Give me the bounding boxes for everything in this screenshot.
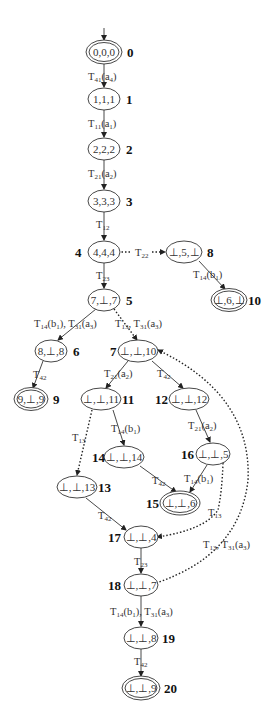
edge-label-5-6: T14(b1), T31(a3) <box>34 318 97 331</box>
edge-label-4-5: T23 <box>96 270 110 283</box>
edge-label-1-2: T11(a1) <box>88 118 117 131</box>
node-label-12: ⊥,⊥,12 <box>171 393 208 405</box>
edge-label-11-14: T14(b1) <box>111 423 141 436</box>
node-label-5: 7,⊥,7 <box>91 294 118 306</box>
node-label-7: ⊥,⊥,10 <box>120 345 157 357</box>
node-label-20: ⊥,⊥,9 <box>126 682 158 694</box>
node-label-3: 3,3,3 <box>93 195 116 207</box>
node-id-15: 15 <box>146 496 160 511</box>
edge-label-16-17: T13 <box>208 507 222 520</box>
node-label-15: ⊥,⊥,6 <box>165 497 197 509</box>
node-id-7: 7 <box>110 344 117 359</box>
node-label-0: 0,0,0 <box>93 46 116 58</box>
node-id-4: 4 <box>75 245 82 260</box>
node-label-8: ⊥,5,⊥ <box>169 246 200 258</box>
edge-label-11-13: T13 <box>72 432 86 445</box>
node-label-4: 4,4,4 <box>93 246 116 258</box>
node-id-5: 5 <box>126 293 133 308</box>
edge-label-14-15: T42 <box>152 475 166 488</box>
edge-label-5-7: T13, T31(a3) <box>115 318 163 331</box>
node-id-20: 20 <box>164 681 177 696</box>
node-label-10: ⊥,6,⊥ <box>214 294 245 306</box>
node-id-6: 6 <box>73 344 80 359</box>
node-id-2: 2 <box>126 142 133 157</box>
node-label-19: ⊥,⊥,8 <box>126 632 158 644</box>
node-id-19: 19 <box>162 631 176 646</box>
edge-label-13-17: T42 <box>98 510 112 523</box>
edge-label-6-9: T42 <box>33 369 47 382</box>
edge-label-18-19: T14(b1), T31(a3) <box>110 606 173 619</box>
edge-label-3-4: T12 <box>96 219 110 232</box>
node-id-8: 8 <box>207 245 214 260</box>
node-id-3: 3 <box>126 194 133 209</box>
node-label-6: 8,⊥,8 <box>38 345 65 357</box>
node-id-9: 9 <box>53 392 60 407</box>
node-label-11: ⊥,⊥,11 <box>83 393 119 405</box>
node-id-14: 14 <box>92 450 106 465</box>
node-label-9: 9,⊥,9 <box>18 393 45 405</box>
edge-label-0-1: T41(a4) <box>88 71 117 84</box>
state-graph: 0,0,0 1,1,1 2,2,2 3,3,3 4,4,4 7,⊥,7 8,⊥,… <box>0 0 277 726</box>
node-id-0: 0 <box>127 45 134 60</box>
edge-label-7-12: T42 <box>157 368 171 381</box>
node-id-12: 12 <box>155 392 168 407</box>
edge-label-16-15: T14(b1) <box>184 473 214 486</box>
edge-label-12-16: T21(a2) <box>188 420 217 433</box>
node-id-10: 10 <box>248 293 261 308</box>
node-label-1: 1,1,1 <box>93 93 115 105</box>
edge-13-17 <box>86 498 126 530</box>
node-label-17: ⊥,⊥,4 <box>126 531 158 543</box>
node-id-1: 1 <box>126 92 133 107</box>
node-label-13: ⊥,⊥,13 <box>59 481 96 493</box>
node-label-2: 2,2,2 <box>93 143 115 155</box>
node-label-16: ⊥,⊥,5 <box>198 448 230 460</box>
node-label-14: ⊥,⊥,14 <box>106 451 143 463</box>
node-id-13: 13 <box>98 480 112 495</box>
node-label-18: ⊥,⊥,7 <box>126 579 158 591</box>
edge-label-2-3: T21(a2) <box>88 168 117 181</box>
node-id-18: 18 <box>108 578 122 593</box>
node-id-16: 16 <box>181 447 195 462</box>
edge-label-18-7: T13, T31(a3) <box>203 539 251 552</box>
edge-label-4-8: T22 <box>135 247 149 260</box>
node-id-11: 11 <box>122 392 134 407</box>
edge-label-7-11: T21(a2) <box>104 368 133 381</box>
edge-label-8-10: T14(b1) <box>193 269 223 282</box>
node-id-17: 17 <box>108 530 122 545</box>
